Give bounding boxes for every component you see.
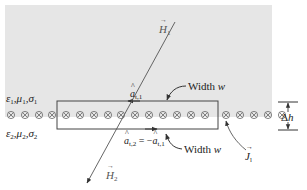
h2-subscript: 2 <box>114 175 118 183</box>
h1-label: H1 <box>159 24 170 37</box>
at1-symbol: a <box>130 89 135 99</box>
h1-subscript: 1 <box>167 29 171 37</box>
width-top-label: Width w <box>188 81 225 92</box>
mu-1: ,μ <box>14 92 22 104</box>
unit-vector-at2-label: at,2 = −at,1 <box>124 136 165 148</box>
sigma-2: ,σ <box>26 127 34 139</box>
h2-symbol: H <box>106 170 114 181</box>
at2-equals: = − <box>136 135 152 146</box>
current-subscript: l <box>250 156 252 164</box>
width-bottom-text: Width <box>184 143 214 155</box>
at2-symbol: a <box>124 136 129 146</box>
thickness-label: Δh <box>281 112 294 123</box>
h2-label: H2 <box>106 170 117 183</box>
width-bottom-label: Width w <box>184 144 221 155</box>
sigma-2-sub: 2 <box>34 133 38 141</box>
width-top-var: w <box>218 80 225 92</box>
width-top-text: Width <box>188 80 218 92</box>
current-symbol: J <box>245 151 250 162</box>
at1-subscript: t,1 <box>135 93 142 101</box>
thickness-var: h <box>288 111 294 123</box>
width-bottom-pointer <box>166 134 182 149</box>
h1-symbol: H <box>159 24 167 35</box>
mu-2: ,μ <box>14 127 22 139</box>
surface-current-label: Jl <box>245 151 252 164</box>
width-bottom-var: w <box>214 143 221 155</box>
current-pointer <box>226 121 246 150</box>
at2-rhs-symbol: a <box>152 136 157 146</box>
sigma-1: ,σ <box>26 92 34 104</box>
diagram-canvas <box>0 0 307 190</box>
sigma-1-sub: 1 <box>34 98 38 106</box>
at2-rhs-subscript: t,1 <box>157 140 164 148</box>
region-2-label: ε2,μ2,σ2 <box>6 128 37 141</box>
unit-vector-at1-label: at,1 <box>130 89 142 101</box>
region-1-label: ε1,μ1,σ1 <box>6 93 37 106</box>
boundary-condition-diagram: ε1,μ1,σ1 ε2,μ2,σ2 H1 H2 at,1 at,2 = −at,… <box>0 0 307 190</box>
